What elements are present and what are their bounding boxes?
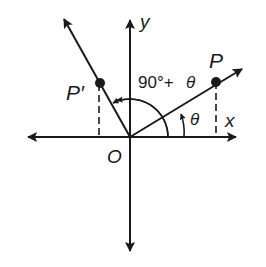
point-p-label: P: [209, 49, 223, 72]
big-angle-theta-label: θ: [186, 73, 196, 92]
angle-arc-theta: [181, 114, 184, 137]
rotation-diagram: y x O P P′ 90°+ θ θ: [0, 0, 266, 267]
small-angle-label: θ: [190, 110, 200, 129]
y-axis-label: y: [138, 11, 151, 32]
point-p: [211, 77, 221, 87]
big-angle-label: 90°+: [138, 73, 174, 92]
ray-op-prime: [64, 19, 130, 137]
origin-label: O: [107, 146, 122, 167]
point-p-prime: [95, 78, 105, 88]
x-axis-label: x: [224, 110, 236, 131]
point-p-prime-label: P′: [66, 81, 85, 104]
